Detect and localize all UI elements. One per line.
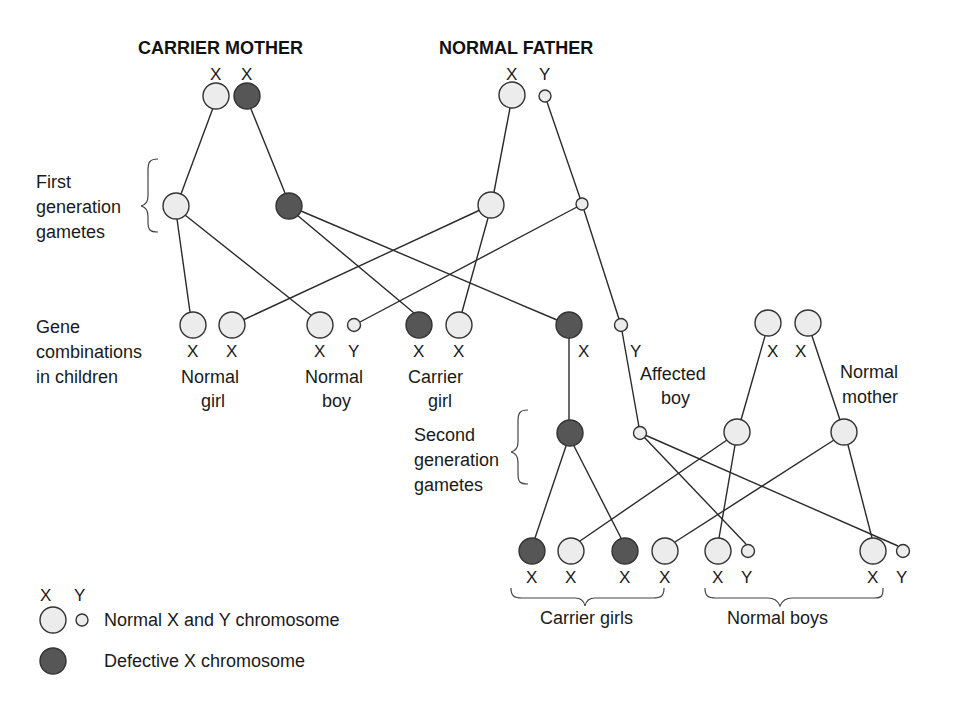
grandchild-normal-boy2-y	[897, 545, 910, 558]
father-y-circle	[539, 90, 551, 102]
child-normal-boy-y	[348, 319, 361, 332]
grandchild-carrier-girl1-x-defective	[519, 538, 545, 564]
svg-text:X: X	[314, 342, 325, 361]
child-affected-boy-y	[615, 319, 628, 332]
grandchild-carrier-girl2-x-normal	[652, 538, 678, 564]
gamete-mother-defective-x	[276, 193, 302, 219]
child-normal-girl-x1	[180, 312, 206, 338]
svg-text:X: X	[187, 342, 198, 361]
svg-text:generation: generation	[414, 450, 499, 470]
svg-text:X: X	[413, 342, 424, 361]
svg-text:boy: boy	[322, 391, 351, 411]
gamete2-defective-x	[557, 420, 583, 446]
grandchild-normal-boy1-y	[742, 545, 755, 558]
carrier-girls-brace	[511, 588, 664, 606]
svg-text:Normal: Normal	[840, 362, 898, 382]
normal-mother-x2-label: X	[795, 342, 806, 361]
gamete2-y	[634, 427, 647, 440]
svg-text:First: First	[36, 172, 71, 192]
chromosome-nodes	[163, 82, 910, 564]
svg-text:boy: boy	[661, 388, 690, 408]
gamete-mother-normal-x	[163, 193, 189, 219]
svg-text:X: X	[659, 568, 670, 587]
legend-normal-text: Normal X and Y chromosome	[104, 610, 339, 630]
normal-mother-label: Normal mother	[840, 362, 898, 407]
second-generation-label: Second generation gametes	[414, 425, 499, 495]
grandchild-normal-boy1-x	[705, 538, 731, 564]
child-normal-girl-x2	[219, 312, 245, 338]
normal-mother-x1-label: X	[767, 342, 778, 361]
carrier-girls-label: Carrier girls	[540, 608, 633, 628]
normal-mother-x2-circle	[795, 310, 821, 336]
legend-defective-text: Defective X chromosome	[104, 651, 305, 671]
svg-text:X: X	[712, 568, 723, 587]
mother-defective-x-circle	[234, 83, 260, 109]
svg-text:generation: generation	[36, 197, 121, 217]
child-normal-boy-x	[307, 312, 333, 338]
children-gene-letters: X X X Y X X X Y	[187, 342, 641, 361]
father-x-label: X	[506, 65, 517, 84]
svg-text:X: X	[867, 568, 878, 587]
svg-text:girl: girl	[201, 391, 225, 411]
svg-text:Y: Y	[741, 568, 752, 587]
gamete2-normal-mother-x2	[831, 419, 857, 445]
svg-text:Second: Second	[414, 425, 475, 445]
svg-text:Normal: Normal	[181, 367, 239, 387]
father-y-label: Y	[539, 65, 550, 84]
svg-text:Carrier: Carrier	[408, 367, 463, 387]
legend-x-label: X	[40, 586, 51, 605]
legend-y-label: Y	[74, 586, 85, 605]
child-normal-boy-label: Normal boy	[305, 367, 363, 411]
gamete2-normal-mother-x1	[724, 419, 750, 445]
svg-text:Gene: Gene	[36, 317, 80, 337]
normal-father-title: NORMAL FATHER	[439, 38, 593, 58]
gene-combinations-label: Gene combinations in children	[36, 317, 142, 387]
inheritance-diagram: CARRIER MOTHER NORMAL FATHER X X X Y	[0, 0, 956, 701]
svg-text:Y: Y	[348, 342, 359, 361]
svg-text:gametes: gametes	[36, 222, 105, 242]
svg-text:Y: Y	[630, 342, 641, 361]
svg-text:girl: girl	[428, 391, 452, 411]
child-carrier-girl-dark-x	[556, 312, 582, 338]
grandchild-normal-boy2-x	[860, 538, 886, 564]
grandchild-carrier-girl2-x-defective	[612, 538, 638, 564]
svg-text:combinations: combinations	[36, 342, 142, 362]
normal-boys-brace	[705, 588, 883, 606]
svg-text:X: X	[578, 342, 589, 361]
legend-normal-x-icon	[40, 607, 66, 633]
mother-x2-label: X	[241, 65, 252, 84]
grandchildren-gene-letters: X X X X X Y X Y	[526, 568, 907, 587]
grandchild-carrier-girl1-x-normal	[558, 538, 584, 564]
mother-normal-x-circle	[203, 83, 229, 109]
svg-text:mother: mother	[842, 387, 898, 407]
svg-text:X: X	[526, 568, 537, 587]
svg-text:X: X	[619, 568, 630, 587]
child-normal-girl-label: Normal girl	[181, 367, 239, 411]
first-gen-brace	[141, 159, 158, 232]
normal-boys-label: Normal boys	[727, 608, 828, 628]
child-carrier-girl-label: Carrier girl	[408, 367, 463, 411]
normal-mother-x1-circle	[755, 310, 781, 336]
svg-text:X: X	[226, 342, 237, 361]
gamete-father-x	[478, 192, 504, 218]
svg-text:Normal: Normal	[305, 367, 363, 387]
father-x-circle	[499, 82, 525, 108]
legend-defective-x-icon	[40, 648, 66, 674]
svg-text:gametes: gametes	[414, 475, 483, 495]
connection-lines	[177, 102, 898, 546]
child-affected-boy-label: Affected boy	[640, 364, 706, 408]
gamete-father-y	[576, 198, 588, 210]
first-generation-label: First generation gametes	[36, 172, 121, 242]
mother-x1-label: X	[210, 65, 221, 84]
second-gen-brace	[511, 410, 528, 484]
carrier-mother-title: CARRIER MOTHER	[138, 38, 303, 58]
svg-text:Affected: Affected	[640, 364, 706, 384]
legend-normal-y-icon	[76, 614, 88, 626]
child-carrier-girl-x2	[446, 312, 472, 338]
svg-text:Y: Y	[896, 568, 907, 587]
svg-text:in children: in children	[36, 367, 118, 387]
child-carrier-girl-x1	[406, 312, 432, 338]
svg-text:X: X	[565, 568, 576, 587]
svg-text:X: X	[453, 342, 464, 361]
legend: X Y Normal X and Y chromosome Defective …	[40, 586, 339, 674]
